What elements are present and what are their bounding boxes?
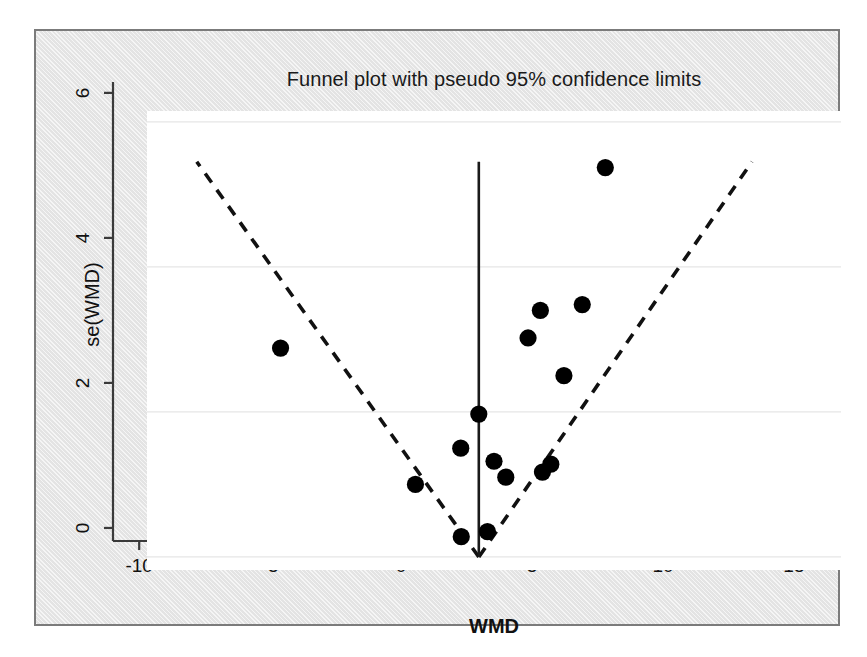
plot-canvas [147,111,841,570]
data-point [542,456,559,473]
funnel-plot-figure: Funnel plot with pseudo 95% confidence l… [0,0,867,657]
data-point [470,406,487,423]
data-point [479,523,496,540]
data-point [272,340,289,357]
data-point [497,469,514,486]
data-point [532,302,549,319]
figure-frame: Funnel plot with pseudo 95% confidence l… [34,29,840,626]
confidence-limit-line-left [197,162,479,557]
page-title: Funnel plot with pseudo 95% confidence l… [147,68,841,91]
data-point [574,296,591,313]
y-tick-label: 4 [72,224,94,252]
y-tick-label: 0 [72,514,94,542]
x-axis-label: WMD [147,615,841,638]
data-point [519,329,536,346]
plot-area [147,111,841,570]
confidence-limit-line-right [479,162,752,557]
y-tick-label: 6 [72,79,94,107]
data-point [597,159,614,176]
data-point [452,440,469,457]
y-tick-label: 2 [72,369,94,397]
data-point [485,453,502,470]
data-point [555,367,572,384]
data-point [453,528,470,545]
data-point [407,476,424,493]
